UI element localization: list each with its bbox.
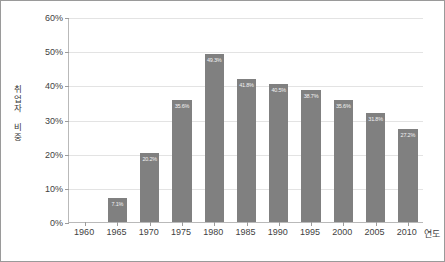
- bar[interactable]: 20.2%: [140, 153, 159, 222]
- bar-value-label: 41.8%: [237, 82, 256, 88]
- bar-slot: 31.8%: [366, 18, 385, 222]
- x-tick-label: 1970: [139, 227, 159, 237]
- bar-series: 7.1%20.2%35.6%49.3%41.8%40.5%38.7%35.6%3…: [69, 18, 423, 222]
- x-tick-mark: [376, 222, 377, 226]
- y-tick-label: 10%: [27, 184, 63, 194]
- x-tick-label: 1995: [300, 227, 320, 237]
- x-tick-mark: [214, 222, 215, 226]
- bar-slot: 40.5%: [269, 18, 288, 222]
- x-tick-label: 2005: [365, 227, 385, 237]
- bar-slot: 27.2%: [398, 18, 417, 222]
- x-tick-label: 1960: [74, 227, 94, 237]
- x-tick-mark: [85, 222, 86, 226]
- bar[interactable]: 41.8%: [237, 79, 256, 222]
- bar-value-label: 35.6%: [334, 103, 353, 109]
- bar[interactable]: 40.5%: [269, 84, 288, 222]
- x-tick-label: 1980: [203, 227, 223, 237]
- y-tick-label: 30%: [27, 116, 63, 126]
- x-tick-mark: [182, 222, 183, 226]
- bar-slot: 7.1%: [108, 18, 127, 222]
- x-tick-mark: [343, 222, 344, 226]
- bar[interactable]: 38.7%: [301, 90, 320, 222]
- bar-value-label: 40.5%: [269, 87, 288, 93]
- x-axis-title: 연도: [424, 227, 440, 240]
- x-tick-mark: [279, 222, 280, 226]
- bar-value-label: 7.1%: [108, 201, 127, 207]
- bar[interactable]: 31.8%: [366, 113, 385, 222]
- y-tick-label: 50%: [27, 47, 63, 57]
- y-tick-label: 40%: [27, 81, 63, 91]
- y-tick-label: 60%: [27, 13, 63, 23]
- x-tick-mark: [117, 222, 118, 226]
- bar[interactable]: 35.6%: [172, 100, 191, 222]
- x-tick-mark: [311, 222, 312, 226]
- x-tick-mark: [408, 222, 409, 226]
- bar[interactable]: 49.3%: [205, 54, 224, 222]
- bar-slot: [75, 18, 94, 222]
- y-tick-label: 0%: [27, 218, 63, 228]
- bar-value-label: 20.2%: [140, 156, 159, 162]
- bar-slot: 35.6%: [172, 18, 191, 222]
- x-tick-mark: [247, 222, 248, 226]
- x-tick-label: 1965: [106, 227, 126, 237]
- bar-value-label: 38.7%: [301, 93, 320, 99]
- bar-slot: 20.2%: [140, 18, 159, 222]
- y-tick-mark: [65, 223, 69, 224]
- x-tick-mark: [150, 222, 151, 226]
- y-tick-label: 20%: [27, 150, 63, 160]
- y-axis-title: 취 업 자 비 중: [11, 85, 25, 142]
- bar-value-label: 35.6%: [172, 103, 191, 109]
- bar-slot: 41.8%: [237, 18, 256, 222]
- bar-slot: 49.3%: [205, 18, 224, 222]
- chart-figure: 취 업 자 비 중 0%10%20%30%40%50%60% 7.1%20.2%…: [0, 0, 445, 262]
- bar-value-label: 31.8%: [366, 116, 385, 122]
- bar[interactable]: 27.2%: [398, 129, 417, 222]
- bar-value-label: 27.2%: [398, 132, 417, 138]
- plot-area: 7.1%20.2%35.6%49.3%41.8%40.5%38.7%35.6%3…: [68, 18, 423, 223]
- y-axis-tick-labels: 0%10%20%30%40%50%60%: [27, 1, 63, 262]
- x-tick-label: 1985: [235, 227, 255, 237]
- x-axis-tick-labels: 1960196519701975198019851990199520002005…: [68, 227, 423, 245]
- bar-slot: 38.7%: [301, 18, 320, 222]
- x-tick-label: 1990: [268, 227, 288, 237]
- x-tick-label: 1975: [171, 227, 191, 237]
- bar-value-label: 49.3%: [205, 57, 224, 63]
- bar-slot: 35.6%: [334, 18, 353, 222]
- bar[interactable]: 35.6%: [334, 100, 353, 222]
- x-tick-label: 2000: [332, 227, 352, 237]
- bar[interactable]: 7.1%: [108, 198, 127, 222]
- x-tick-label: 2010: [397, 227, 417, 237]
